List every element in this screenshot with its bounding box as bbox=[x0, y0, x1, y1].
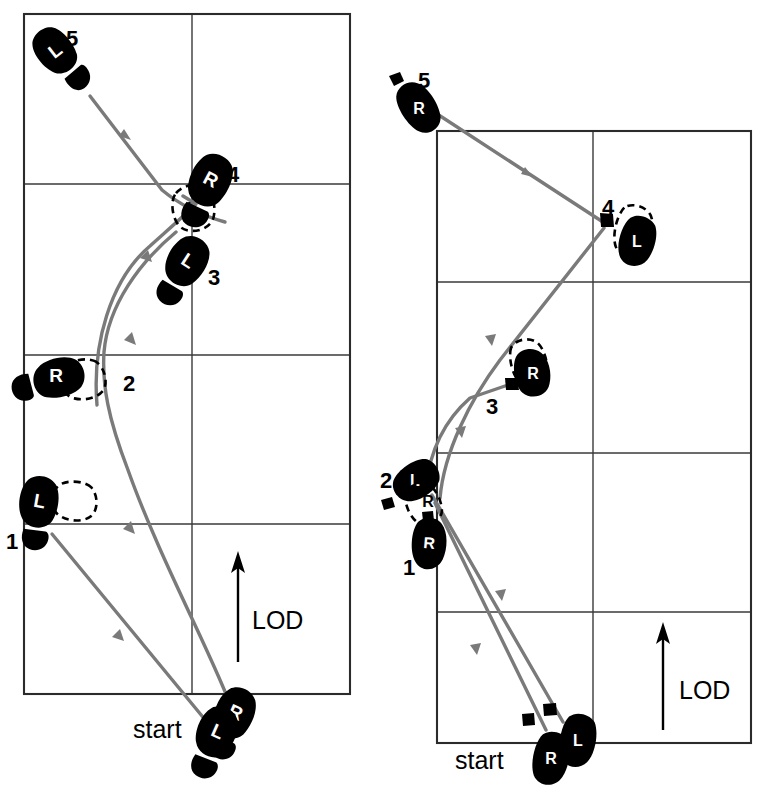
arrowhead-4 bbox=[495, 589, 506, 601]
step-number-3: 3 bbox=[486, 394, 498, 419]
footwork-diagram-page: L 5 L R 4 L 3 R 2 bbox=[0, 0, 771, 792]
step-number-5: 5 bbox=[66, 26, 78, 51]
arrowhead-5 bbox=[112, 629, 124, 641]
step-number-2: 2 bbox=[123, 371, 135, 396]
foot-letter: R bbox=[49, 365, 63, 386]
step-number-5: 5 bbox=[418, 68, 430, 93]
arrowhead-5 bbox=[470, 643, 481, 655]
foot-letter: R bbox=[413, 100, 425, 117]
arrowhead-3 bbox=[124, 332, 136, 345]
foot-letter: R bbox=[527, 365, 539, 382]
step-number-4: 4 bbox=[602, 195, 615, 220]
foot-shape-heel bbox=[187, 753, 220, 783]
step-5-toe-mark bbox=[389, 72, 404, 86]
foot-letter: L bbox=[573, 732, 583, 749]
step-3-foot-right: R bbox=[511, 347, 553, 399]
arrowhead-4 bbox=[123, 521, 135, 534]
grid-frame bbox=[24, 14, 350, 694]
foot-letter: R bbox=[423, 534, 436, 552]
track-path-e bbox=[428, 108, 606, 224]
left-grid bbox=[24, 14, 350, 694]
step-4-foot-left: L bbox=[612, 211, 662, 270]
right-grid bbox=[437, 131, 751, 743]
right-tracks bbox=[426, 108, 606, 730]
lod-arrow bbox=[231, 551, 245, 662]
arrowhead-2 bbox=[485, 334, 496, 346]
right-footwork-diagram: R 5 L 4 R 3 L R bbox=[380, 0, 771, 792]
left-footwork-diagram: L 5 L R 4 L 3 R 2 bbox=[0, 0, 385, 792]
foot-letter: R bbox=[422, 493, 434, 510]
step-number-4: 4 bbox=[227, 162, 240, 187]
grid-frame bbox=[437, 131, 751, 743]
foot-letter: L bbox=[632, 233, 642, 250]
step-number-3: 3 bbox=[208, 265, 220, 290]
track-path-b bbox=[96, 196, 196, 405]
foot-letter: R bbox=[545, 750, 557, 767]
track-path-c bbox=[435, 503, 546, 730]
lod-label: LOD bbox=[679, 676, 730, 704]
foot-shape-heel bbox=[9, 373, 35, 403]
step-number-1: 1 bbox=[403, 555, 415, 580]
step-number-1: 1 bbox=[6, 529, 18, 554]
lod-arrow bbox=[656, 622, 670, 730]
track-path-a bbox=[432, 495, 563, 722]
step-number-2: 2 bbox=[380, 468, 392, 493]
step-5-foot-left: L bbox=[25, 20, 98, 99]
start-toe-mark-right bbox=[522, 713, 535, 726]
lod-label: LOD bbox=[252, 606, 303, 634]
start-label: start bbox=[133, 715, 182, 743]
start-toe-mark-left bbox=[543, 703, 557, 716]
start-label: start bbox=[455, 746, 504, 774]
step-1-foot-right: R bbox=[410, 516, 449, 570]
step-1-foot-left: L bbox=[11, 473, 62, 553]
step-2-toe-mark-left bbox=[381, 497, 395, 510]
